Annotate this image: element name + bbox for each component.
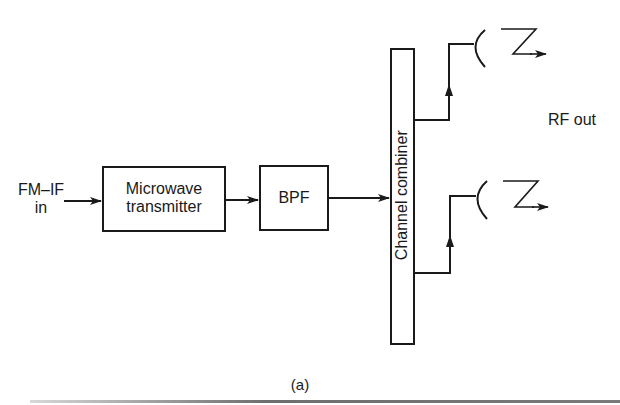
rf-out-label: RF out	[548, 111, 618, 129]
input-label-line2: in	[14, 199, 68, 217]
lower-branch-arrowhead	[446, 235, 454, 247]
upper-dish-icon	[476, 30, 486, 67]
microwave-transmitter-line1: Microwave	[103, 180, 225, 198]
upper-branch-arrowhead	[445, 84, 453, 96]
upper-branch-line	[414, 44, 474, 120]
input-label-line1: FM–IF	[14, 181, 68, 199]
footer-rule	[30, 400, 620, 403]
lower-radiation-icon	[503, 181, 548, 207]
input-label: FM–IF in	[14, 181, 68, 218]
channel-combiner-label: Channel combiner	[393, 105, 411, 285]
figure-caption: (a)	[280, 376, 320, 393]
microwave-transmitter-label: Microwave transmitter	[103, 180, 225, 217]
lower-branch-line	[414, 196, 476, 273]
lower-dish-icon	[478, 181, 488, 219]
bpf-label: BPF	[260, 189, 328, 207]
upper-radiation-icon	[501, 29, 546, 54]
microwave-transmitter-line2: transmitter	[103, 198, 225, 216]
